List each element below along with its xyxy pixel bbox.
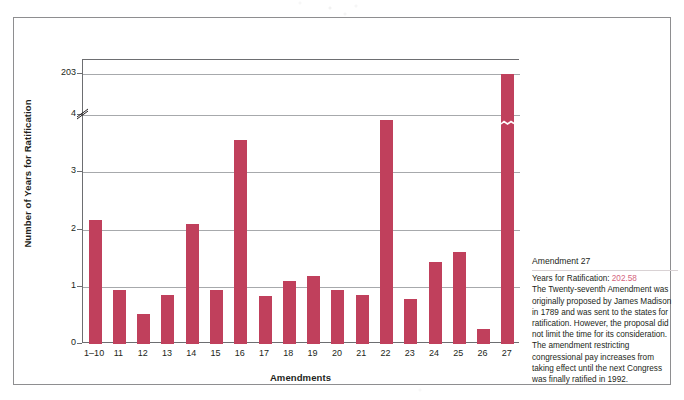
- bar[interactable]: [356, 295, 369, 344]
- bar[interactable]: [161, 295, 174, 344]
- bar[interactable]: [380, 120, 393, 344]
- info-panel-value: 202.58: [612, 274, 637, 283]
- bar[interactable]: [113, 290, 126, 344]
- y-tick-label: 203: [32, 67, 76, 77]
- bar[interactable]: [137, 314, 150, 344]
- bar[interactable]: [89, 220, 102, 344]
- y-tick-mark: [77, 73, 82, 74]
- y-tick-label: 0: [32, 337, 76, 347]
- gridline: [83, 115, 520, 116]
- bar[interactable]: [186, 224, 199, 344]
- gridline: [83, 74, 520, 75]
- x-tick-label: 27: [483, 348, 531, 358]
- gridline: [83, 172, 520, 173]
- bar[interactable]: [259, 296, 272, 344]
- y-tick-mark: [77, 343, 82, 344]
- bar-break-icon: [501, 112, 514, 119]
- info-panel-body: The Twenty-seventh Amendment was origina…: [532, 284, 678, 385]
- info-panel-value-line: Years for Ratification: 202.58: [532, 273, 678, 284]
- info-panel-title: Amendment 27: [532, 256, 678, 271]
- figure-frame: Number of Years for Ratification 0123420…: [13, 17, 671, 385]
- x-axis-title: Amendments: [82, 372, 519, 383]
- bar[interactable]: [234, 140, 247, 344]
- gridline: [83, 230, 520, 231]
- y-tick-mark: [77, 171, 82, 172]
- bar[interactable]: [331, 290, 344, 344]
- amendment-info-panel: Amendment 27 Years for Ratification: 202…: [532, 256, 678, 385]
- bar[interactable]: [477, 329, 490, 344]
- plot-area: [82, 59, 519, 343]
- y-tick-label: 4: [32, 108, 76, 118]
- bar[interactable]: [453, 252, 466, 344]
- bar[interactable]: [404, 299, 417, 344]
- y-tick-mark: [77, 286, 82, 287]
- y-tick-label: 3: [32, 165, 76, 175]
- bar[interactable]: [210, 290, 223, 344]
- bar[interactable]: [429, 262, 442, 344]
- y-axis-title: Number of Years for Ratification: [22, 49, 33, 299]
- y-tick-mark: [77, 229, 82, 230]
- info-panel-value-label: Years for Ratification:: [532, 274, 610, 283]
- bar[interactable]: [307, 276, 320, 344]
- bar[interactable]: [283, 281, 296, 344]
- y-tick-mark: [77, 114, 82, 115]
- y-tick-label: 2: [32, 223, 76, 233]
- y-tick-label: 1: [32, 280, 76, 290]
- bar[interactable]: [501, 74, 514, 344]
